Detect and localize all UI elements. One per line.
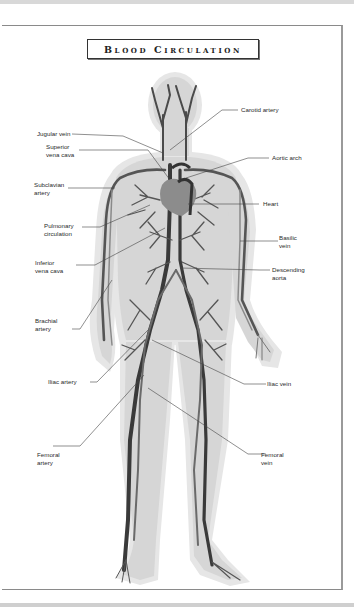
label-femoral-artery: Femoral artery — [37, 451, 60, 467]
label-heart: Heart — [263, 200, 278, 208]
circulatory-system-figure — [0, 0, 354, 607]
label-inferior-vena-cava: Inferior vena cava — [35, 259, 63, 275]
label-iliac-vein: Iliac vein — [267, 380, 291, 388]
label-descending-aorta: Descending aorta — [272, 266, 305, 282]
label-aortic-arch: Aortic arch — [272, 154, 302, 162]
label-pulmonary-circulation: Pulmonary circulation — [44, 222, 74, 238]
label-iliac-artery: Iliac artery — [48, 378, 77, 386]
label-superior-vena-cava: Superior vena cava — [46, 143, 74, 159]
label-basilic-vein: Basilic vein — [279, 234, 297, 250]
label-subclavian-artery: Subclavian artery — [34, 181, 64, 197]
label-carotid-artery: Carotid artery — [241, 106, 278, 114]
label-femoral-vein: Femoral vein — [261, 451, 284, 467]
label-jugular-vein: Jugular vein — [37, 130, 70, 138]
label-brachial-artery: Brachial artery — [35, 317, 57, 333]
